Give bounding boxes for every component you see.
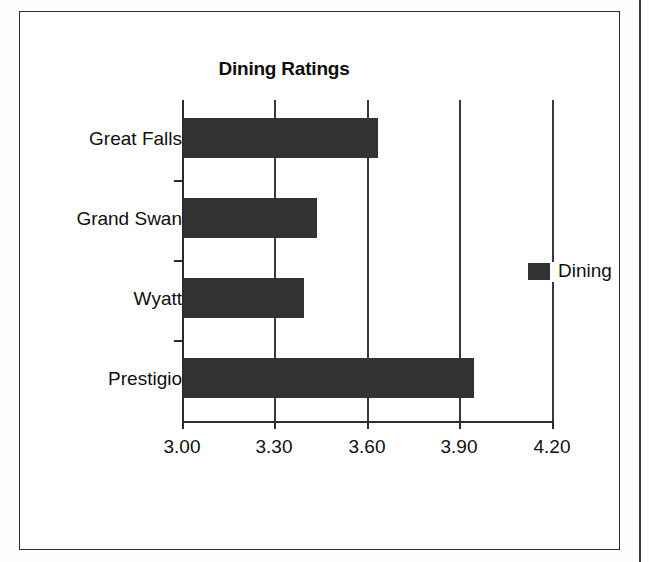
x-tick-label-0: 3.00: [132, 436, 232, 458]
gridline-4-20-lower: [552, 282, 554, 421]
gridline-4-20-upper: [552, 100, 554, 262]
x-tick-label-2: 3.60: [317, 436, 417, 458]
chart-title: Dining Ratings: [19, 58, 549, 80]
x-tick-label-1: 3.30: [224, 436, 324, 458]
chart-legend: Dining: [528, 260, 612, 282]
y-tick-0: [174, 180, 182, 182]
y-axis-label-0: Great Falls: [0, 128, 182, 150]
y-axis-category-labels: Great Falls Grand Swan Wyatt Prestigio: [0, 100, 182, 421]
x-axis-tick-labels: 3.00 3.30 3.60 3.90 4.20: [182, 436, 562, 466]
bar-great-falls: [184, 118, 378, 158]
x-tick-4-20: [552, 421, 554, 429]
plot-area: [182, 100, 552, 421]
y-axis-label-1: Grand Swan: [0, 208, 182, 230]
bar-wyatt: [184, 278, 304, 318]
bar-chart-figure: Dining Ratings Great Falls Grand Swan Wy…: [19, 11, 620, 550]
x-tick-3-00: [182, 421, 184, 429]
y-tick-1: [174, 260, 182, 262]
x-tick-label-4: 4.20: [502, 436, 602, 458]
x-tick-3-90: [459, 421, 461, 429]
y-tick-2: [174, 340, 182, 342]
y-axis-label-3: Prestigio: [0, 368, 182, 390]
legend-label-dining: Dining: [558, 260, 612, 282]
x-tick-3-30: [274, 421, 276, 429]
bar-grand-swan: [184, 198, 317, 238]
scanned-page: Dining Ratings Great Falls Grand Swan Wy…: [0, 0, 649, 562]
y-axis-label-2: Wyatt: [0, 288, 182, 310]
x-tick-3-60: [367, 421, 369, 429]
x-tick-label-3: 3.90: [409, 436, 509, 458]
page-edge-line: [639, 0, 641, 562]
bar-prestigio: [184, 358, 474, 398]
legend-swatch-dining: [528, 263, 550, 280]
